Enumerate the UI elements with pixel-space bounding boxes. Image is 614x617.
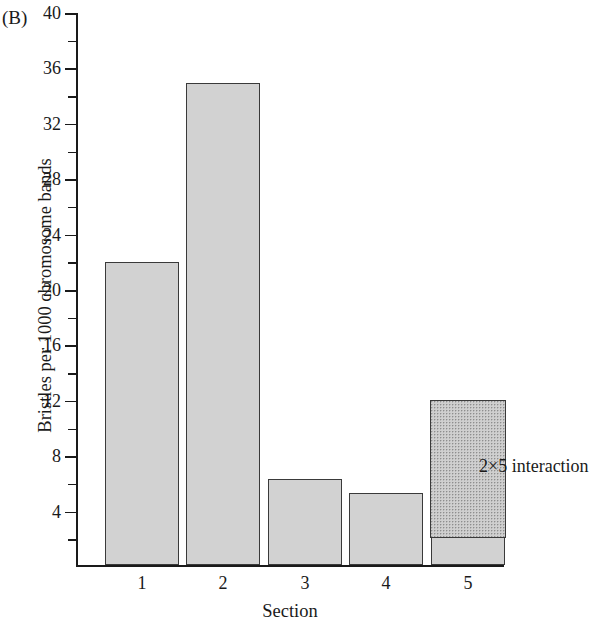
y-tick-major-36 — [65, 68, 76, 70]
x-axis-title: Section — [76, 601, 504, 617]
y-tick-label-16: 16 — [43, 336, 61, 354]
interaction-annotation: 2×5 interaction — [479, 456, 589, 477]
plot-area: 40 36 32 28 24 20 16 12 8 4 — [76, 13, 504, 567]
x-tick-label-4: 4 — [382, 573, 391, 594]
y-tick-label-36: 36 — [43, 59, 61, 77]
y-tick-major-40 — [65, 13, 76, 15]
y-axis-line — [76, 13, 78, 567]
y-tick-major-28 — [65, 179, 76, 181]
y-tick-label-4: 4 — [52, 503, 61, 521]
y-tick-label-32: 32 — [43, 115, 61, 133]
y-tick-major-32 — [65, 124, 76, 126]
y-tick-minor-38 — [68, 41, 76, 43]
bar-section-2 — [186, 83, 260, 565]
y-tick-minor-2 — [68, 539, 76, 541]
bar-section-3 — [268, 479, 342, 565]
x-tick-label-5: 5 — [464, 573, 473, 594]
y-tick-label-8: 8 — [52, 447, 61, 465]
y-tick-minor-18 — [68, 318, 76, 320]
figure-panel-b: (B) Bristles per 1000 chromosome bands 4… — [0, 0, 614, 617]
y-tick-label-24: 24 — [43, 226, 61, 244]
y-tick-label-40: 40 — [43, 4, 61, 22]
y-tick-label-12: 12 — [43, 392, 61, 410]
x-tick-label-3: 3 — [301, 573, 310, 594]
y-tick-major-4 — [65, 512, 76, 514]
bar-section-4 — [349, 493, 423, 565]
y-tick-major-20 — [65, 290, 76, 292]
y-tick-minor-10 — [68, 429, 76, 431]
y-tick-minor-30 — [68, 152, 76, 154]
y-tick-major-8 — [65, 456, 76, 458]
y-tick-minor-22 — [68, 262, 76, 264]
y-tick-minor-14 — [68, 373, 76, 375]
y-tick-label-20: 20 — [43, 281, 61, 299]
x-tick-label-1: 1 — [138, 573, 147, 594]
panel-label: (B) — [2, 7, 27, 29]
x-tick-label-2: 2 — [219, 573, 228, 594]
x-axis-line — [76, 565, 504, 567]
y-tick-major-12 — [65, 401, 76, 403]
bar-section-5 — [431, 400, 505, 565]
y-tick-major-24 — [65, 235, 76, 237]
y-tick-minor-26 — [68, 207, 76, 209]
bar-section-1 — [105, 262, 179, 565]
y-tick-label-28: 28 — [43, 170, 61, 188]
y-tick-major-16 — [65, 345, 76, 347]
y-tick-minor-34 — [68, 96, 76, 98]
y-tick-minor-6 — [68, 484, 76, 486]
